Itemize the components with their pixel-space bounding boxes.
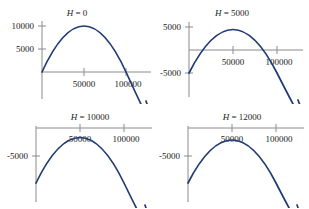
x-tick-label-50000-h-0: 50000 [73, 79, 96, 89]
y-tick-label-5000-h-0: 5000 [16, 44, 35, 54]
plot-area-h-12000: H = 12000 50000 100000 -5000 [155, 104, 309, 208]
x-tick-label-100000-h-12000: 100000 [266, 134, 294, 144]
title-value-h-10000: 10000 [87, 112, 110, 122]
chart-panel-h-0: H = 0 50000 100000 10000 5000 [0, 0, 155, 104]
parabola-curve-h-0 [42, 26, 154, 104]
y-tick-label-neg5000-h-5000: -5000 [160, 68, 181, 78]
y-tick-label-5000-h-5000: 5000 [163, 22, 182, 32]
panel-title-h-0: H = 0 [66, 8, 88, 18]
chart-panel-h-12000: H = 12000 50000 100000 -5000 [155, 104, 309, 208]
x-tick-label-50000-h-12000: 50000 [221, 134, 244, 144]
parabola-curve-h-10000 [36, 138, 153, 209]
chart-panel-h-10000: H = 10000 50000 100000 -5000 [0, 104, 155, 208]
y-tick-label-neg5000-h-12000: -5000 [159, 151, 180, 161]
plot-area-h-5000: H = 5000 50000 100000 5000 -5000 [155, 0, 309, 104]
panel-title-h-12000: H = 12000 [222, 112, 262, 122]
title-value-h-12000: 12000 [239, 112, 262, 122]
x-tick-label-100000-h-10000: 100000 [113, 134, 141, 144]
panel-title-h-10000: H = 10000 [70, 112, 110, 122]
title-value-h-5000: 5000 [231, 8, 250, 18]
chart-panel-h-5000: H = 5000 50000 100000 5000 -5000 [155, 0, 309, 104]
x-tick-label-100000-h-0: 100000 [115, 79, 143, 89]
y-tick-label-10000-h-0: 10000 [12, 21, 35, 31]
x-tick-label-50000-h-5000: 50000 [222, 57, 245, 67]
y-tick-label-neg5000-h-10000: -5000 [7, 151, 28, 161]
title-value-h-0: 0 [83, 8, 88, 18]
plot-area-h-0: H = 0 50000 100000 10000 5000 [0, 0, 155, 104]
figure-four-parabola-panels: H = 0 50000 100000 10000 5000 H = 5000 [0, 0, 309, 208]
plot-area-h-10000: H = 10000 50000 100000 -5000 [0, 104, 155, 208]
panel-title-h-5000: H = 5000 [214, 8, 250, 18]
parabola-curve-h-12000 [188, 140, 305, 208]
